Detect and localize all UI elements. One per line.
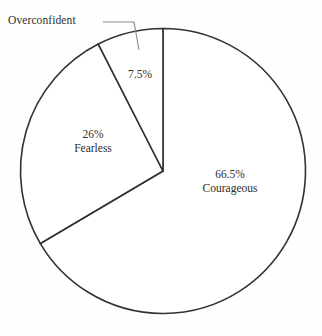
overconfident-percent: 7.5% bbox=[128, 68, 152, 82]
courageous-percent: 66.5% bbox=[188, 168, 272, 182]
slice-label-fearless: 26% Fearless bbox=[57, 128, 129, 155]
slice-label-courageous: 66.5% Courageous bbox=[188, 168, 272, 195]
overconfident-name: Overconfident bbox=[8, 14, 76, 28]
slice-label-overconfident: Overconfident bbox=[8, 14, 76, 28]
fearless-percent: 26% bbox=[57, 128, 129, 142]
pie-chart-figure: Overconfident 7.5% 26% Fearless 66.5% Co… bbox=[0, 0, 322, 336]
pie-chart-svg bbox=[0, 0, 322, 336]
slice-label-overconfident-percent: 7.5% bbox=[128, 68, 152, 82]
fearless-name: Fearless bbox=[57, 142, 129, 156]
courageous-name: Courageous bbox=[188, 182, 272, 196]
